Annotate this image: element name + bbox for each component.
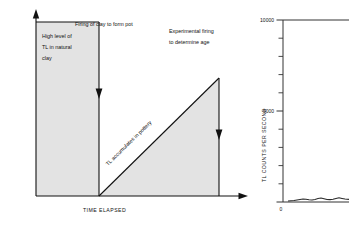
- high-level-tl-note-line3: clay: [42, 55, 52, 61]
- plot-ytick-label-10000: 10000: [260, 17, 274, 23]
- high-level-tl-note-line1: High level of: [42, 33, 72, 39]
- diagram-x-axis-label: TIME ELAPSED: [83, 207, 126, 213]
- plot-y-axis-label: TL COUNTS PER SECOND: [261, 108, 267, 182]
- firing-clay-note: Firing of clay to form pot: [75, 21, 133, 27]
- figure-container: High level of TL in natural clay Firing …: [0, 0, 349, 225]
- figure-svg: High level of TL in natural clay Firing …: [0, 0, 349, 225]
- x-axis-arrowhead: [239, 193, 249, 199]
- experimental-firing-note-line1: Experimental firing: [169, 28, 214, 34]
- y-axis-arrowhead: [33, 9, 39, 19]
- panel-tl-accumulation-diagram: High level of TL in natural clay Firing …: [33, 9, 248, 213]
- experimental-firing-note-line2: to determine age: [169, 39, 209, 45]
- plot-data-series-tl-counts: [288, 198, 349, 201]
- panel-tl-counts-plot: 10000 5000 0 TL COUNTS PER SECOND: [260, 17, 349, 212]
- plot-ytick-label-0: 0: [280, 206, 283, 212]
- high-level-tl-note-line2: TL in natural: [42, 44, 72, 50]
